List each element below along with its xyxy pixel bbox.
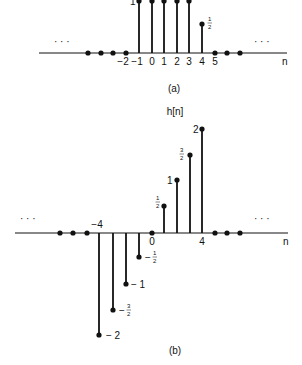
- tick-label-neg4-b: −4: [91, 219, 103, 230]
- value-label-one-a: 1: [130, 0, 136, 7]
- value-label-neg-half-b: − 1 2: [145, 250, 157, 264]
- svg-text:3: 3: [127, 303, 131, 309]
- svg-text:3: 3: [180, 147, 184, 153]
- panel-b: h[n] · · · · · ·: [15, 106, 289, 356]
- panel-a: · · · · · · 1 1 2: [39, 0, 288, 94]
- value-label-one-b: 1: [167, 175, 173, 186]
- value-label-neg-three-half-b: − 3 2: [119, 303, 131, 317]
- caption-b: (b): [169, 345, 181, 356]
- svg-text:5: 5: [212, 56, 218, 67]
- svg-text:1: 1: [161, 56, 167, 67]
- svg-text:−: −: [145, 252, 151, 263]
- zero-samples-right-b: [212, 230, 242, 235]
- value-label-half-b: 1 2: [156, 195, 161, 209]
- value-label-two-b: 2: [193, 124, 199, 135]
- svg-text:3: 3: [186, 56, 192, 67]
- zero-samples-left-b: [57, 230, 89, 235]
- svg-text:2: 2: [208, 24, 212, 30]
- svg-text:−1: −1: [131, 56, 143, 67]
- ellipsis-left-a: · · ·: [54, 36, 70, 47]
- svg-text:2: 2: [180, 155, 184, 161]
- zero-samples-right-a: [212, 50, 242, 55]
- tick-label-0-b: 0: [149, 236, 155, 247]
- svg-text:1: 1: [208, 16, 212, 22]
- value-label-three-half-b: 3 2: [180, 147, 185, 161]
- sample-zero-b: [149, 230, 154, 235]
- title-hn: h[n]: [167, 106, 184, 117]
- svg-text:−: −: [119, 305, 125, 316]
- axis-label-n-b: n: [283, 236, 289, 247]
- value-label-neg-one-b: − 1: [131, 279, 146, 290]
- stem-plot-figure: · · · · · · 1 1 2: [0, 0, 302, 365]
- svg-text:2: 2: [174, 56, 180, 67]
- ellipsis-right-b: · · ·: [254, 213, 270, 224]
- tick-label-4-b: 4: [199, 236, 205, 247]
- axis-label-n-a: n: [282, 56, 288, 67]
- value-label-neg-two-b: − 2: [106, 330, 121, 341]
- svg-text:1: 1: [153, 250, 157, 256]
- svg-text:2: 2: [153, 258, 157, 264]
- stems-a: [136, 0, 204, 53]
- tick-labels-a: −2 −1 0 1 2 3 4 5: [117, 56, 218, 67]
- svg-text:2: 2: [127, 311, 131, 317]
- value-label-half-a: 1 2: [208, 16, 213, 30]
- svg-text:0: 0: [149, 56, 155, 67]
- ellipsis-right-a: · · ·: [254, 36, 270, 47]
- svg-text:4: 4: [199, 56, 205, 67]
- svg-text:−2: −2: [117, 56, 129, 67]
- caption-a: (a): [168, 83, 180, 94]
- ellipsis-left-b: · · ·: [20, 213, 36, 224]
- svg-text:2: 2: [156, 203, 160, 209]
- svg-text:1: 1: [156, 195, 160, 201]
